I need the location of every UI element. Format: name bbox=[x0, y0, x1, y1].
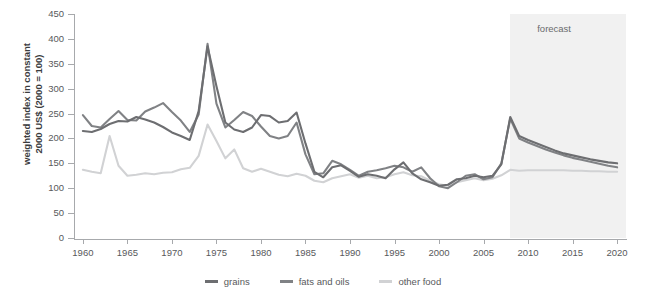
legend-swatch-icon bbox=[280, 280, 293, 283]
x-tick-label: 1960 bbox=[63, 247, 103, 258]
x-tick bbox=[484, 239, 485, 244]
legend-label: grains bbox=[224, 276, 250, 287]
y-tick-label: 150 bbox=[0, 157, 64, 168]
x-tick-label: 1970 bbox=[152, 247, 192, 258]
y-tick-label: 400 bbox=[0, 33, 64, 44]
legend-label: fats and oils bbox=[299, 276, 350, 287]
legend-swatch-icon bbox=[379, 280, 392, 283]
legend-label: other food bbox=[398, 276, 441, 287]
y-tick-label: 200 bbox=[0, 132, 64, 143]
y-tick-label: 50 bbox=[0, 207, 64, 218]
series-line-other-food bbox=[83, 125, 617, 186]
x-tick bbox=[172, 239, 173, 244]
x-tick-label: 2020 bbox=[597, 247, 637, 258]
x-tick-label: 2015 bbox=[553, 247, 593, 258]
series-line-fats-and-oils bbox=[83, 44, 617, 188]
series-lines bbox=[74, 14, 626, 238]
x-tick bbox=[617, 239, 618, 244]
x-tick bbox=[83, 239, 84, 244]
y-tick-label: 450 bbox=[0, 8, 64, 19]
y-tick bbox=[68, 238, 74, 239]
x-tick bbox=[216, 239, 217, 244]
x-tick-label: 2000 bbox=[419, 247, 459, 258]
x-tick-label: 1985 bbox=[285, 247, 325, 258]
series-line-grains bbox=[83, 46, 617, 185]
x-tick bbox=[395, 239, 396, 244]
y-tick-label: 0 bbox=[0, 232, 64, 243]
y-tick-label: 100 bbox=[0, 182, 64, 193]
x-tick-label: 1980 bbox=[241, 247, 281, 258]
x-tick bbox=[573, 239, 574, 244]
y-tick-label: 250 bbox=[0, 108, 64, 119]
x-tick-label: 1975 bbox=[196, 247, 236, 258]
x-tick-label: 2010 bbox=[508, 247, 548, 258]
x-tick bbox=[528, 239, 529, 244]
x-tick bbox=[305, 239, 306, 244]
legend-grains[interactable]: grains bbox=[205, 276, 250, 287]
x-tick bbox=[261, 239, 262, 244]
x-tick bbox=[439, 239, 440, 244]
y-tick-label: 300 bbox=[0, 83, 64, 94]
x-tick bbox=[127, 239, 128, 244]
x-tick-label: 1965 bbox=[107, 247, 147, 258]
chart-legend: grainsfats and oilsother food bbox=[0, 276, 646, 287]
x-tick-label: 1990 bbox=[330, 247, 370, 258]
legend-swatch-icon bbox=[205, 280, 218, 283]
x-tick bbox=[350, 239, 351, 244]
legend-fats-and-oils[interactable]: fats and oils bbox=[280, 276, 350, 287]
x-tick-label: 2005 bbox=[464, 247, 504, 258]
y-tick-label: 350 bbox=[0, 58, 64, 69]
chart-container: weighted index in constant 2000 US$ (200… bbox=[0, 0, 646, 302]
x-tick-label: 1995 bbox=[375, 247, 415, 258]
legend-other-food[interactable]: other food bbox=[379, 276, 441, 287]
